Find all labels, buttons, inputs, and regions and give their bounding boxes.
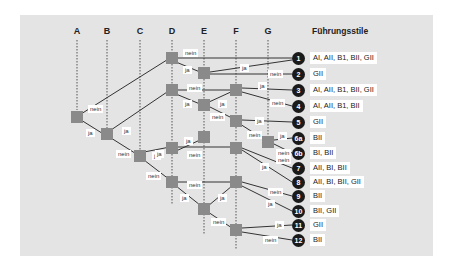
column-label-b: B [100, 26, 114, 36]
decision-node-b [101, 128, 113, 140]
decision-node-e4 [198, 203, 210, 215]
branch-label-yes: ja [218, 100, 227, 108]
decision-node-e2 [198, 99, 210, 111]
branch-label-yes: ja [266, 200, 275, 208]
decision-node-f5 [230, 224, 242, 236]
branch-label-no: nein [183, 49, 198, 57]
column-label-g: G [261, 26, 275, 36]
branch-label-no: nein [88, 105, 103, 113]
branch-label-no: nein [187, 181, 202, 189]
decision-node-e1 [198, 67, 210, 79]
outcome-styles-1: AI, AII, B1, BII, GII [310, 52, 377, 64]
column-label-e: E [197, 26, 211, 36]
outcome-circle-5: 5 [292, 116, 305, 129]
branch-label-no: nein [187, 84, 202, 92]
decision-node-d3 [166, 142, 178, 154]
decision-node-g [262, 136, 274, 148]
branch-label-yes: ja [184, 137, 193, 145]
branch-label-no: nein [116, 150, 131, 158]
outcome-circle-12: 12 [292, 234, 305, 247]
decision-node-d4 [166, 176, 178, 188]
branch-label-yes: ja [218, 194, 227, 202]
decision-node-f4 [230, 176, 242, 188]
branch-label-yes: ja [260, 163, 269, 171]
outcome-styles-11: GII [310, 219, 326, 231]
outcome-styles-6a: BII [310, 132, 325, 144]
decision-node-d1 [166, 52, 178, 64]
branch-label-no: nein [210, 113, 225, 121]
decision-node-a [71, 111, 83, 123]
outcome-circle-1: 1 [292, 52, 305, 65]
branch-label-no: nein [146, 172, 161, 180]
branch-label-yes: ja [122, 127, 131, 135]
branch-label-yes: ja [155, 150, 164, 158]
branch-label-no: nein [268, 188, 283, 196]
outcome-styles-8: AII, BI, BII, GII [310, 176, 364, 188]
outcome-styles-10: BII, GII [310, 205, 339, 217]
decision-node-f2 [230, 115, 242, 127]
branch-label-no: nein [268, 70, 283, 78]
outcome-styles-6b: BI, BII [310, 147, 336, 159]
outcome-circle-9: 9 [292, 190, 305, 203]
legend-title: Führungsstile [312, 26, 368, 36]
outcome-circle-6b: 6b [292, 147, 305, 160]
outcome-styles-9: BII [310, 190, 325, 202]
decision-node-e3 [198, 131, 210, 143]
decision-node-f3 [230, 142, 242, 154]
branch-label-no: nein [263, 236, 278, 244]
column-label-c: C [133, 26, 147, 36]
decision-node-c [134, 150, 146, 162]
column-label-a: A [70, 26, 84, 36]
decision-node-d2 [166, 84, 178, 96]
branch-label-yes: ja [275, 221, 284, 229]
branch-label-no: nein [276, 156, 291, 164]
branch-label-yes: ja [183, 100, 192, 108]
outcome-circle-2: 2 [292, 68, 305, 81]
branch-label-yes: ja [278, 132, 287, 140]
outcome-circle-11: 11 [292, 219, 305, 232]
outcome-styles-5: GII [310, 116, 326, 128]
outcome-circle-8: 8 [292, 176, 305, 189]
branch-label-yes: ja [183, 66, 192, 74]
outcome-styles-12: BII [310, 234, 325, 246]
decision-node-f1 [230, 84, 242, 96]
branch-label-no: nein [187, 151, 202, 159]
branch-label-no: nein [270, 99, 285, 107]
outcome-styles-3: AI, AII, B1, BII, GII [310, 84, 377, 96]
branch-label-yes: ja [240, 64, 249, 72]
outcome-circle-3: 3 [292, 84, 305, 97]
outcome-circle-6a: 6a [292, 132, 305, 145]
branch-label-yes: ja [255, 117, 264, 125]
branch-label-yes: ja [258, 82, 267, 90]
branch-label-no: nein [247, 131, 262, 139]
branch-label-no: nein [211, 218, 226, 226]
decision-tree-lines [0, 0, 452, 268]
column-label-f: F [229, 26, 243, 36]
branch-label-yes: ja [180, 194, 189, 202]
branch-label-yes: ja [86, 129, 95, 137]
outcome-circle-10: 10 [292, 205, 305, 218]
outcome-styles-2: GII [310, 68, 326, 80]
outcome-circle-7: 7 [292, 162, 305, 175]
outcome-styles-7: AII, BI, BII [310, 162, 350, 174]
outcome-circle-4: 4 [292, 100, 305, 113]
outcome-styles-4: AI, AII, B1, BII [310, 100, 363, 112]
column-label-d: D [165, 26, 179, 36]
